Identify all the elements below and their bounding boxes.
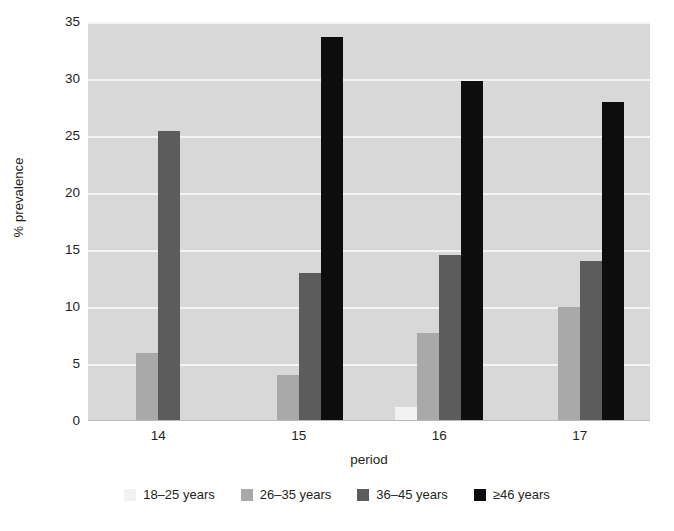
bar [321,37,343,421]
legend-swatch-icon [241,489,253,501]
bar [558,307,580,421]
bar-group [369,22,510,421]
x-tick-label: 15 [269,428,329,443]
bar-group [229,22,370,421]
x-axis-tick-labels: 14151617 [88,428,650,450]
bar [299,273,321,421]
bar [602,102,624,421]
legend-label: 36–45 years [376,487,448,502]
bar [580,261,602,421]
bar-chart-figure: % prevalence 05101520253035 14151617 per… [0,0,674,531]
bar [461,81,483,421]
bar-group [88,22,229,421]
bar [395,407,417,421]
bar [417,333,439,421]
x-tick-label: 16 [409,428,469,443]
x-tick-label: 14 [128,428,188,443]
x-axis-baseline [88,420,650,421]
legend-label: 26–35 years [260,487,332,502]
legend-label: ≥46 years [493,487,550,502]
plot-area [88,22,650,421]
y-tick-label: 0 [46,414,80,427]
legend-item: ≥46 years [474,487,550,502]
legend-label: 18–25 years [143,487,215,502]
y-tick-label: 25 [46,129,80,142]
y-axis-label: % prevalence [11,118,26,278]
chart-legend: 18–25 years26–35 years36–45 years≥46 yea… [0,487,674,502]
legend-item: 26–35 years [241,487,332,502]
y-tick-label: 20 [46,186,80,199]
bar-series-container [88,22,650,421]
bar [158,131,180,421]
bar [277,375,299,421]
y-tick-label: 30 [46,72,80,85]
y-tick-label: 10 [46,300,80,313]
y-tick-label: 35 [46,15,80,28]
legend-swatch-icon [357,489,369,501]
y-tick-label: 5 [46,357,80,370]
bar [136,353,158,421]
bar [439,255,461,421]
y-tick-label: 15 [46,243,80,256]
legend-item: 36–45 years [357,487,448,502]
legend-swatch-icon [474,489,486,501]
y-axis-tick-labels: 05101520253035 [44,0,80,531]
x-axis-label: period [88,452,650,467]
legend-swatch-icon [124,489,136,501]
legend-item: 18–25 years [124,487,215,502]
bar-group [510,22,651,421]
x-tick-label: 17 [550,428,610,443]
